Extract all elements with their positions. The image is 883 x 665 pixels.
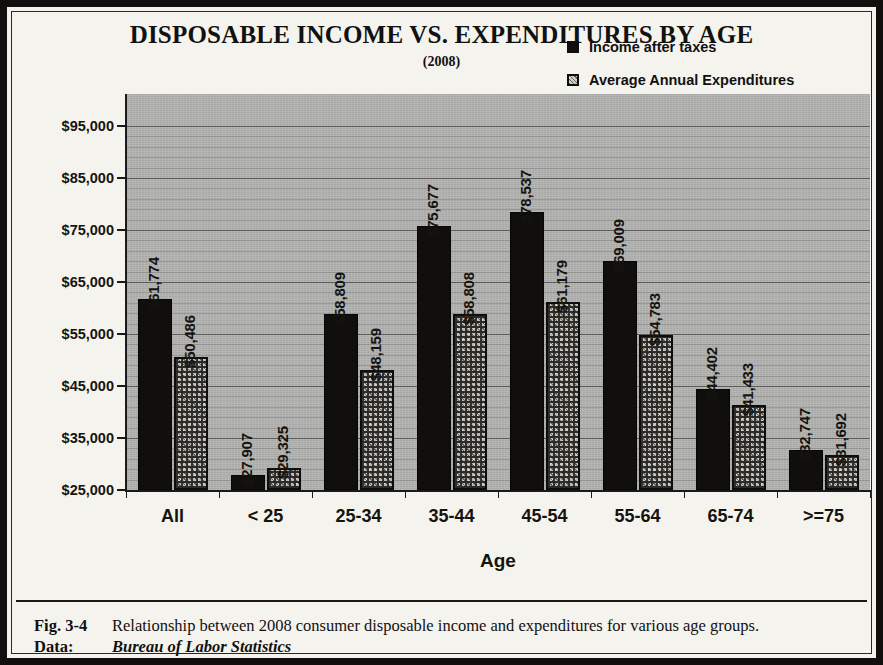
x-axis-tick-mark [126,490,127,498]
minor-gridline [126,147,870,148]
gridline [126,386,870,387]
x-axis-category-label: 55-64 [614,506,660,527]
legend-label-expenditures: Average Annual Expenditures [589,72,794,88]
x-axis-tick-mark [219,490,220,498]
x-axis-category-label: 35-44 [428,506,474,527]
gridline [126,230,870,231]
gridline [126,178,870,179]
bar-value-label: $44,402 [703,347,720,400]
minor-gridline [126,209,870,210]
bar-expenditures [453,314,487,490]
minor-gridline [126,355,870,356]
minor-gridline [126,251,870,252]
bar-income [138,299,172,490]
bar-expenditures [360,370,394,490]
bar-income [417,226,451,490]
minor-gridline [126,136,870,137]
bar-value-label: $48,159 [367,328,384,381]
legend-item-expenditures: Average Annual Expenditures [567,72,794,89]
caption-data-source: Bureau of Labor Statistics [112,637,291,657]
figure-caption: Fig. 3-4 Relationship between 2008 consu… [34,616,853,658]
bar-expenditures [546,302,580,490]
x-axis-tick-mark [591,490,592,498]
x-axis-category-label: 65-74 [707,506,753,527]
chart-legend: Income after taxes Average Annual Expend… [567,39,794,106]
figure-inner-border: DISPOSABLE INCOME VS. EXPENDITURES BY AG… [11,11,872,654]
legend-label-income: Income after taxes [589,39,716,55]
minor-gridline [126,157,870,158]
minor-gridline [126,272,870,273]
minor-gridline [126,168,870,169]
y-axis-tick-label: $25,000 [24,482,114,498]
minor-gridline [126,220,870,221]
y-axis-tick-label: $45,000 [24,378,114,394]
bar-value-label: $32,747 [796,408,813,461]
caption-row-figure: Fig. 3-4 Relationship between 2008 consu… [34,616,853,636]
bar-expenditures [174,357,208,490]
x-axis-category-label: >=75 [803,506,844,527]
gridline [126,126,870,127]
y-axis-tick-label: $55,000 [24,326,114,342]
bar-value-label: $58,808 [460,272,477,325]
bar-expenditures [639,335,673,490]
bar-value-label: $41,433 [739,363,756,416]
minor-gridline [126,396,870,397]
minor-gridline [126,188,870,189]
minor-gridline [126,261,870,262]
x-axis-category-label: < 25 [248,506,284,527]
minor-gridline [126,303,870,304]
y-axis-tick-label: $35,000 [24,430,114,446]
legend-item-income: Income after taxes [567,39,794,56]
bar-income [510,212,544,490]
legend-swatch-solid-icon [567,41,579,53]
minor-gridline [126,240,870,241]
bar-value-label: $50,486 [181,316,198,369]
x-axis-tick-mark [498,490,499,498]
bar-value-label: $58,809 [331,272,348,325]
x-axis-category-label: 25-34 [335,506,381,527]
minor-gridline [126,376,870,377]
minor-gridline [126,292,870,293]
x-axis-tick-mark [777,490,778,498]
y-axis-tick-label: $75,000 [24,222,114,238]
legend-swatch-hatched-icon [567,74,579,86]
minor-gridline [126,344,870,345]
y-axis-tick-label: $95,000 [24,118,114,134]
x-axis-tick-mark [870,490,871,498]
caption-data-label: Data: [34,637,112,657]
x-axis-tick-mark [312,490,313,498]
bar-value-label: $31,692 [832,413,849,466]
x-axis-category-label: 45-54 [521,506,567,527]
bar-value-label: $75,677 [424,185,441,238]
x-axis-category-label: All [161,506,184,527]
bar-value-label: $69,009 [610,219,627,272]
y-axis-tick-label: $85,000 [24,170,114,186]
bar-expenditures [732,405,766,490]
bar-income [696,389,730,490]
bar-value-label: $61,774 [145,257,162,310]
y-axis-line [125,94,127,492]
y-axis-tick-label: $65,000 [24,274,114,290]
minor-gridline [126,313,870,314]
x-axis-tick-mark [405,490,406,498]
bar-value-label: $29,325 [274,426,291,479]
bar-value-label: $27,907 [238,433,255,486]
figure-frame: DISPOSABLE INCOME VS. EXPENDITURES BY AG… [0,0,883,665]
minor-gridline [126,324,870,325]
bar-value-label: $61,179 [553,260,570,313]
bar-income [603,261,637,490]
gridline [126,334,870,335]
caption-figure-number: Fig. 3-4 [34,616,112,636]
minor-gridline [126,199,870,200]
bar-value-label: $54,783 [646,293,663,346]
bar-income [324,314,358,490]
caption-divider [16,600,867,602]
x-axis-title: Age [126,550,870,572]
gridline [126,282,870,283]
x-axis-tick-mark [684,490,685,498]
minor-gridline [126,365,870,366]
caption-row-data: Data: Bureau of Labor Statistics [34,637,853,657]
caption-description: Relationship between 2008 consumer dispo… [112,616,759,636]
bar-value-label: $78,537 [517,170,534,223]
